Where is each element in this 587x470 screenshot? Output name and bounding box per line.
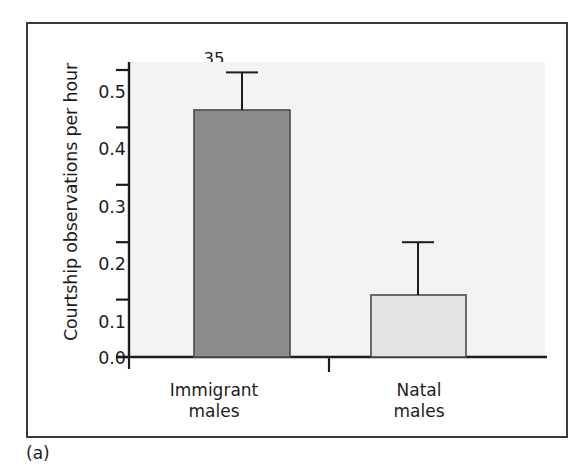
plot-area-background	[129, 62, 545, 357]
bar-chart-plot	[28, 24, 570, 440]
figure-frame: Courtship observations per hour 0.5 0.4 …	[26, 22, 568, 438]
bar-natal-males	[371, 295, 466, 357]
bar-immigrant-males	[194, 110, 290, 357]
figure-caption: (a)	[26, 443, 50, 463]
